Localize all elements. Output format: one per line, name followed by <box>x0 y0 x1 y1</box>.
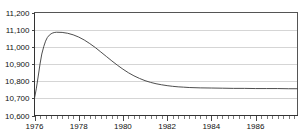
x-tick-label: 1984 <box>202 122 220 131</box>
y-tick-label: 10,900 <box>5 60 30 69</box>
y-tick-label: 10,600 <box>5 112 30 121</box>
line-chart: 10,60010,70010,80010,90011,00011,10011,2… <box>0 0 303 136</box>
x-tick-label: 1976 <box>26 122 44 131</box>
y-tick-label: 11,200 <box>6 9 30 18</box>
chart-container: 10,60010,70010,80010,90011,00011,10011,2… <box>0 0 303 136</box>
y-tick-label: 10,700 <box>5 94 30 103</box>
y-tick-label: 11,100 <box>6 26 30 35</box>
x-tick-label: 1982 <box>158 122 176 131</box>
y-tick-label: 11,000 <box>6 43 30 52</box>
x-tick-label: 1986 <box>247 122 265 131</box>
x-tick-label: 1978 <box>70 122 88 131</box>
x-tick-label: 1980 <box>114 122 132 131</box>
y-tick-label: 10,800 <box>5 77 30 86</box>
